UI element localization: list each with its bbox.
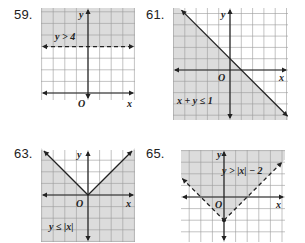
- y-axis-arrow-down: [85, 94, 90, 99]
- x-axis-label: x: [278, 72, 284, 83]
- exercise-number-59: 59.: [14, 7, 33, 22]
- exercise-number-63: 63.: [14, 146, 33, 161]
- inequality-label: y > |x| − 2: [221, 165, 263, 176]
- graph-59: y > 4 y O x: [41, 8, 135, 108]
- exercise-number-61: 61.: [146, 7, 165, 22]
- x-axis-label: x: [125, 198, 131, 209]
- origin-label: O: [218, 72, 225, 83]
- x-axis-arrow-left: [42, 90, 47, 95]
- y-axis-arrow-down: [221, 236, 226, 241]
- inequality-label: y > 4: [54, 31, 75, 42]
- inequality-label: y ≤ |x|: [48, 221, 73, 232]
- x-axis-label: x: [275, 199, 281, 210]
- graph-65: y > |x| − 2 y O x: [181, 150, 285, 242]
- y-axis-label: y: [216, 149, 222, 160]
- exercise-number-65: 65.: [146, 146, 165, 161]
- y-axis-arrow-up: [85, 151, 90, 156]
- inequality-label: x + y ≤ 1: [176, 95, 213, 106]
- x-axis-label: x: [126, 98, 132, 109]
- vertex-point: [222, 218, 226, 222]
- y-axis-label: y: [78, 9, 84, 20]
- y-axis-arrow-up: [227, 9, 232, 14]
- x-axis-arrow-left: [182, 194, 187, 199]
- y-axis-label: y: [220, 9, 226, 20]
- origin-label: O: [76, 198, 83, 209]
- origin-label: O: [215, 199, 222, 210]
- graph-61: x + y ≤ 1 y O x: [173, 8, 288, 120]
- graph-63: y ≤ |x| y O x: [41, 150, 135, 242]
- y-axis-label: y: [76, 149, 82, 160]
- origin-label: O: [78, 98, 85, 109]
- x-axis-arrow-right: [129, 90, 134, 95]
